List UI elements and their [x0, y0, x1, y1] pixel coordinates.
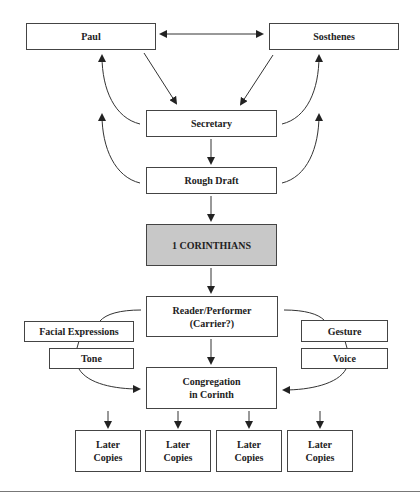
- node-label: Gesture: [328, 325, 362, 338]
- node-paul: Paul: [26, 23, 156, 50]
- node-label: Later Copies: [306, 438, 335, 464]
- node-label: Paul: [81, 30, 100, 43]
- node-label: Facial Expressions: [39, 325, 119, 338]
- node-label: Voice: [333, 352, 356, 365]
- node-label: Congregation in Corinth: [182, 375, 240, 401]
- node-sosthenes: Sosthenes: [269, 23, 399, 50]
- node-label: Later Copies: [235, 438, 264, 464]
- node-1-corinthians: 1 CORINTHIANS: [146, 224, 277, 266]
- node-gesture: Gesture: [301, 320, 388, 342]
- node-label: Tone: [81, 352, 102, 365]
- node-congregation: Congregation in Corinth: [146, 367, 277, 409]
- node-reader-performer: Reader/Performer (Carrier?): [146, 296, 278, 337]
- node-label: 1 CORINTHIANS: [172, 239, 251, 252]
- node-label: Later Copies: [94, 438, 123, 464]
- node-facial-expressions: Facial Expressions: [24, 321, 134, 342]
- node-tone: Tone: [49, 348, 134, 369]
- node-later-copies: Later Copies: [287, 430, 353, 472]
- node-later-copies: Later Copies: [216, 430, 282, 472]
- node-later-copies: Later Copies: [145, 430, 211, 472]
- node-label: Secretary: [191, 117, 232, 130]
- node-rough-draft: Rough Draft: [146, 167, 277, 194]
- node-secretary: Secretary: [146, 110, 277, 137]
- node-label: Reader/Performer (Carrier?): [173, 304, 252, 330]
- bottom-rule: [0, 491, 420, 492]
- node-later-copies: Later Copies: [75, 430, 141, 472]
- node-label: Later Copies: [164, 438, 193, 464]
- node-voice: Voice: [301, 348, 388, 369]
- node-label: Sosthenes: [313, 30, 355, 43]
- node-label: Rough Draft: [184, 174, 238, 187]
